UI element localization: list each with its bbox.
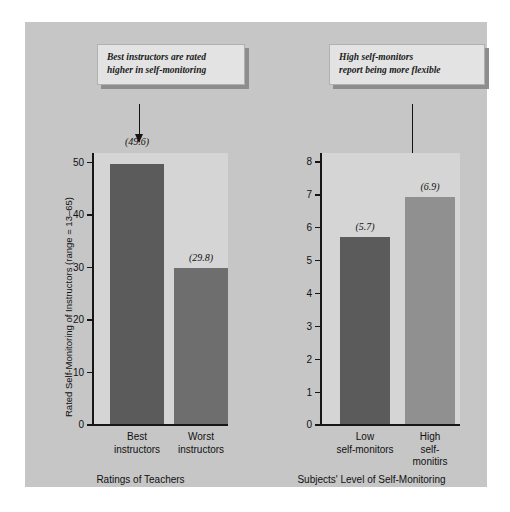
y-tick-label: 2 bbox=[306, 353, 312, 364]
x-axis-title-right: Subjects' Level of Self-Monitoring bbox=[256, 474, 487, 485]
y-axis-line-left bbox=[92, 153, 94, 426]
bar-value-best-instructors: (49.6) bbox=[125, 136, 149, 147]
y-tick-label: 0 bbox=[306, 419, 312, 430]
plot-area-left: 0 10 20 30 40 50 bbox=[92, 153, 228, 426]
y-tick-label: 0 bbox=[78, 419, 84, 430]
x-axis-title-left: Ratings of Teachers bbox=[25, 474, 256, 485]
y-tick-label: 6 bbox=[306, 222, 312, 233]
bar-low-self-monitors bbox=[340, 237, 390, 425]
x-axis-line-right bbox=[320, 424, 460, 426]
y-tick-label: 1 bbox=[306, 386, 312, 397]
bar-best-instructors bbox=[110, 164, 164, 424]
y-axis-label-left: Rated Self-Monitoring of Instructors (ra… bbox=[63, 197, 74, 417]
chart-left: Best instructors are rated higher in sel… bbox=[25, 22, 256, 487]
y-tick-label: 40 bbox=[73, 209, 84, 220]
callout-left: Best instructors are rated higher in sel… bbox=[97, 44, 245, 85]
bar-worst-instructors bbox=[174, 268, 228, 425]
y-tick-label: 10 bbox=[73, 366, 84, 377]
bar-value-high-self-monitors: (6.9) bbox=[420, 181, 439, 192]
y-tick-label: 20 bbox=[73, 314, 84, 325]
y-tick-label: 4 bbox=[306, 287, 312, 298]
x-tick-label-best-instructors: Best instructors bbox=[114, 431, 160, 456]
bar-high-self-monitors bbox=[405, 197, 455, 424]
bar-value-worst-instructors: (29.8) bbox=[189, 252, 213, 263]
x-tick-label-low-self-monitors: Low self-monitors bbox=[336, 431, 393, 456]
chart-right: High self-monitors report being more fle… bbox=[256, 22, 487, 487]
plot-area-right: 0 1 2 3 4 5 6 bbox=[320, 153, 460, 426]
y-tick-label: 30 bbox=[73, 261, 84, 272]
callout-right: High self-monitors report being more fle… bbox=[329, 44, 485, 85]
bar-value-low-self-monitors: (5.7) bbox=[355, 221, 374, 232]
x-tick-label-worst-instructors: Worst instructors bbox=[178, 431, 224, 456]
y-tick-label: 3 bbox=[306, 320, 312, 331]
y-tick-label: 50 bbox=[73, 156, 84, 167]
y-tick-label: 8 bbox=[306, 156, 312, 167]
x-axis-line-left bbox=[92, 424, 228, 426]
figure-panel: Best instructors are rated higher in sel… bbox=[25, 22, 487, 487]
y-tick-label: 5 bbox=[306, 254, 312, 265]
y-tick-label: 7 bbox=[306, 189, 312, 200]
y-axis-line-right bbox=[320, 153, 322, 426]
x-tick-label-high-self-monitors: High self-monitirs bbox=[413, 431, 448, 469]
